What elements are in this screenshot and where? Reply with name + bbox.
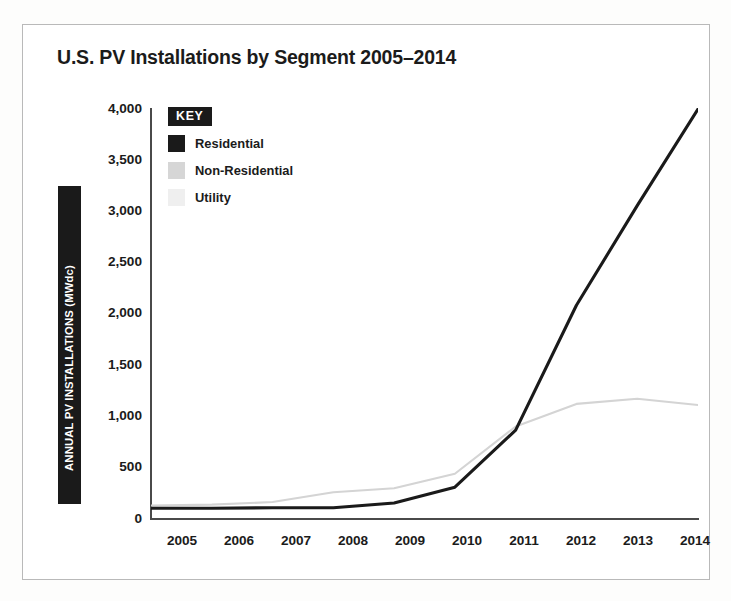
y-axis-ticks: 4,000 3,500 3,000 2,500 2,000 1,500 1,00… — [80, 0, 142, 601]
y-tick-label: 2,500 — [80, 254, 142, 269]
y-tick-label: 3,000 — [80, 203, 142, 218]
chart-legend: KEY Residential Non-Residential Utility — [168, 106, 338, 207]
x-axis-ticks: 2005 2006 2007 2008 2009 2010 2011 2012 … — [0, 533, 731, 557]
legend-label-non-residential: Non-Residential — [195, 163, 293, 178]
legend-label-residential: Residential — [195, 136, 264, 151]
legend-swatch-residential — [168, 135, 185, 152]
y-tick-label: 0 — [80, 511, 142, 526]
y-tick-label: 1,500 — [80, 357, 142, 372]
legend-item-non-residential[interactable]: Non-Residential — [168, 162, 338, 180]
legend-item-utility[interactable]: Utility — [168, 189, 338, 207]
legend-item-residential[interactable]: Residential — [168, 135, 338, 153]
y-tick-label: 4,000 — [80, 101, 142, 116]
chart-figure: U.S. PV Installations by Segment 2005–20… — [0, 0, 731, 601]
y-tick-label: 500 — [80, 459, 142, 474]
y-tick-label: 3,500 — [80, 152, 142, 167]
y-axis-label-text: ANNUAL PV INSTALLATIONS (MWdc) — [58, 209, 81, 527]
legend-swatch-non-residential — [168, 162, 185, 179]
x-tick-label: 2014 — [660, 533, 730, 548]
legend-label-utility: Utility — [195, 190, 231, 205]
legend-swatch-utility — [168, 189, 185, 206]
legend-key-badge: KEY — [168, 107, 212, 126]
series-line-non-residential — [151, 399, 698, 506]
y-tick-label: 1,000 — [80, 408, 142, 423]
y-tick-label: 2,000 — [80, 305, 142, 320]
